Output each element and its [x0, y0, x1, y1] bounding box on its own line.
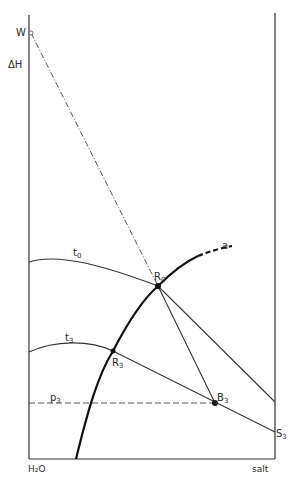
label-s3: S3: [276, 428, 287, 441]
label-a: a: [222, 240, 228, 251]
w-r0-line: [31, 33, 158, 286]
label-b3: B3: [217, 392, 228, 405]
label-w: W: [16, 27, 26, 38]
enthalpy-diagram: W ΔH t0 t3 a p3 R0 R3 B3 S3 H₂O salt: [0, 0, 296, 479]
label-r3: R3: [112, 357, 123, 370]
isotherm-t0: [29, 259, 275, 402]
label-salt: salt: [252, 464, 269, 474]
label-t0: t0: [73, 247, 81, 260]
point-r3: [111, 349, 116, 354]
label-delta-h: ΔH: [8, 59, 22, 70]
saturation-curve-a: [76, 256, 198, 459]
isotherm-t3: [29, 343, 275, 432]
r0-b3-line: [158, 286, 215, 403]
label-h2o: H₂O: [28, 464, 45, 474]
point-w: [29, 31, 33, 35]
